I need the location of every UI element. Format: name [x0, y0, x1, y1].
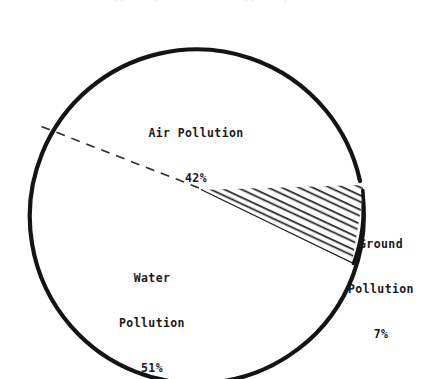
artifact-fragment: .. [112, 0, 125, 4]
artifact-fragment: . [282, 0, 289, 4]
slice-label-air-name: Air Pollution [96, 126, 296, 141]
pie-chart: .. . .. . Air Pollution 42% Water Pollut… [0, 0, 428, 379]
slice-label-water-value: 51% [72, 361, 232, 376]
slice-label-air-pollution: Air Pollution 42% [96, 96, 296, 216]
artifact-fragment: . [152, 0, 159, 4]
slice-label-water-pollution: Water Pollution 51% [72, 241, 232, 379]
slice-label-ground-value: 7% [334, 327, 428, 342]
slice-label-ground-name-line1: Ground [334, 237, 428, 252]
slice-label-air-value: 42% [96, 171, 296, 186]
top-edge-scan-artifact: .. . .. . [0, 0, 428, 7]
slice-label-water-name-line1: Water [72, 271, 232, 286]
slice-label-ground-name-line2: Pollution [334, 282, 428, 297]
slice-label-water-name-line2: Pollution [72, 316, 232, 331]
slice-label-ground-pollution: Ground Pollution 7% [334, 207, 428, 372]
artifact-fragment: .. [243, 0, 256, 4]
